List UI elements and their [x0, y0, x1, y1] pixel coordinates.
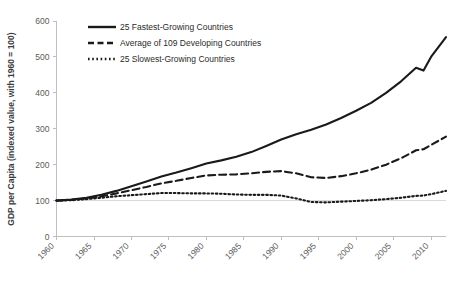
y-tick-label: 600: [35, 16, 49, 26]
y-tick-label: 0: [45, 232, 50, 242]
y-tick-label: 200: [35, 160, 49, 170]
y-tick-label: 100: [35, 196, 49, 206]
legend-label: Average of 109 Developing Countries: [120, 38, 261, 48]
y-tick-label: 300: [35, 124, 49, 134]
y-tick-label: 500: [35, 52, 49, 62]
legend-label: 25 Fastest-Growing Countries: [120, 22, 233, 32]
chart-page: 0100200300400500600 19601965197019751980…: [0, 0, 464, 285]
line-chart: 0100200300400500600 19601965197019751980…: [0, 0, 464, 285]
legend-label: 25 Slowest-Growing Countries: [120, 54, 235, 64]
y-tick-label: 400: [35, 88, 49, 98]
y-axis-title: GDP per Capita (indexed value, with 1960…: [6, 32, 16, 225]
